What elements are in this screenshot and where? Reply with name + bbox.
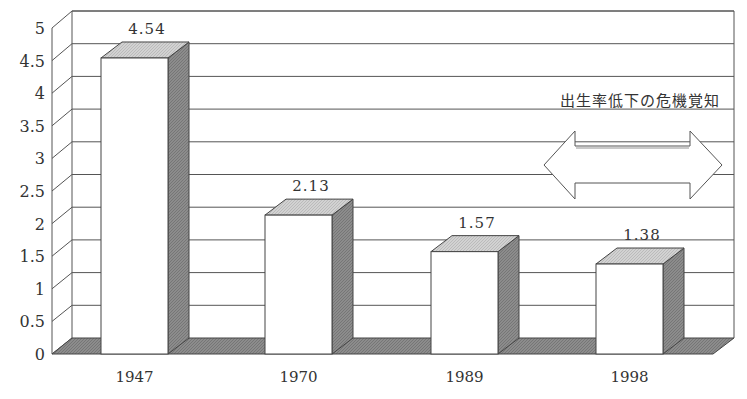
bar-1998: 1.38 <box>596 226 684 354</box>
bar-1989: 1.57 <box>431 214 519 354</box>
x-tick-label: 1998 <box>610 368 648 386</box>
bars: 4.542.131.571.38 <box>101 20 684 354</box>
y-tick-label: 4 <box>35 84 45 103</box>
x-tick-label: 1989 <box>445 368 483 386</box>
y-tick-label: 3.5 <box>20 117 45 136</box>
y-tick-label: 2.5 <box>20 182 45 201</box>
x-tick-label: 1947 <box>115 368 153 386</box>
y-tick-label: 0.5 <box>20 312 45 331</box>
y-tick-label: 1 <box>35 280 45 299</box>
annotation: 出生率低下の危機覚知 <box>544 92 722 199</box>
y-tick-label: 4.5 <box>20 52 45 71</box>
y-tick-label: 3 <box>35 149 45 168</box>
y-tick-label: 5 <box>35 19 45 38</box>
data-label: 1.57 <box>458 214 495 232</box>
x-axis-labels: 1947197019891998 <box>115 368 648 386</box>
data-label: 4.54 <box>128 20 165 38</box>
bar-chart: 00.511.522.533.544.55 4.542.131.571.38 1… <box>0 0 747 399</box>
bar-1947: 4.54 <box>101 20 189 354</box>
y-axis-ticks: 00.511.522.533.544.55 <box>20 19 45 364</box>
bar-1970: 2.13 <box>265 177 353 354</box>
annotation-text: 出生率低下の危機覚知 <box>560 92 720 110</box>
y-tick-label: 0 <box>35 345 45 364</box>
y-tick-label: 2 <box>35 215 45 234</box>
x-tick-label: 1970 <box>279 368 317 386</box>
data-label: 2.13 <box>292 177 329 195</box>
double-arrow-icon <box>544 131 722 199</box>
y-tick-label: 1.5 <box>20 247 45 266</box>
data-label: 1.38 <box>623 226 660 244</box>
